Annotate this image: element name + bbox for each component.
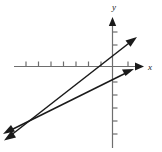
y-axis-label: y: [111, 2, 116, 12]
coordinate-plane-svg: x y: [0, 0, 162, 152]
x-axis-label: x: [147, 62, 152, 72]
plot-background: [0, 0, 162, 152]
graph-figure: x y: [0, 0, 162, 152]
